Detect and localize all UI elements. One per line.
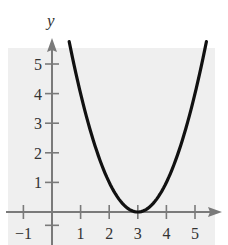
x-tick-label: 5	[191, 225, 199, 242]
y-tick-label: 5	[34, 56, 42, 73]
y-tick-label: 3	[34, 115, 42, 132]
y-axis-arrow-icon	[47, 38, 57, 52]
x-tick-label: 3	[134, 225, 142, 242]
x-tick-label: 2	[105, 225, 113, 242]
x-tick-label: 1	[77, 225, 85, 242]
y-tick-label: 4	[34, 86, 42, 103]
x-tick-label: 4	[162, 225, 170, 242]
y-tick-label: 2	[34, 145, 42, 162]
y-axis-title: y	[45, 11, 55, 30]
y-tick-label: 1	[34, 174, 42, 191]
x-tick-label: −1	[15, 225, 32, 242]
parabola-chart: −112345 12345 y	[0, 0, 228, 245]
